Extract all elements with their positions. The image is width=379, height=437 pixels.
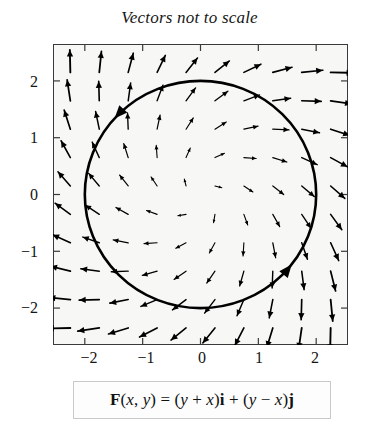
vector-field-figure: Vectors not to scale 2 1 0 −1 −2 −2 −1 0… bbox=[0, 0, 379, 437]
equation-term1-b: x bbox=[206, 390, 214, 409]
field-equation: F(x, y) = (y + x)i + (y − x)j bbox=[110, 390, 294, 410]
x-tick-label-1: 1 bbox=[244, 349, 274, 367]
y-tick-label-2: 2 bbox=[8, 73, 38, 91]
x-tick-label-neg2: −2 bbox=[74, 349, 104, 367]
equation-comma: , bbox=[134, 390, 143, 409]
equation-F: F bbox=[110, 390, 120, 409]
figure-title: Vectors not to scale bbox=[0, 8, 379, 28]
equation-var-x: x bbox=[126, 390, 134, 409]
equation-plus: + bbox=[225, 390, 243, 409]
x-tick-label-0: 0 bbox=[187, 349, 217, 367]
y-tick-label-1: 1 bbox=[8, 129, 38, 147]
equation-box: F(x, y) = (y + x)i + (y − x)j bbox=[73, 381, 331, 419]
equation-term1-a: y bbox=[180, 390, 188, 409]
y-tick-label-neg2: −2 bbox=[8, 299, 38, 317]
equation-equals: = bbox=[156, 390, 174, 409]
y-tick-label-neg1: −1 bbox=[8, 243, 38, 261]
equation-term2-op: − bbox=[256, 390, 274, 409]
equation-j-hat: j bbox=[288, 390, 294, 409]
equation-term1-op: + bbox=[188, 390, 206, 409]
x-tick-label-neg1: −1 bbox=[131, 349, 161, 367]
plot-canvas bbox=[53, 44, 348, 345]
y-tick-label-0: 0 bbox=[8, 186, 38, 204]
x-tick-label-2: 2 bbox=[300, 349, 330, 367]
